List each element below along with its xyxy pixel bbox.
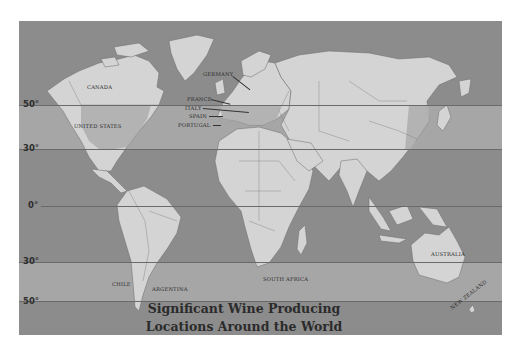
label-argentina: ARGENTINA (152, 286, 188, 292)
map-title-line1: Significant Wine Producing (114, 301, 374, 316)
latitude-label-50n: 50° (23, 99, 39, 109)
label-australia: AUSTRALIA (431, 251, 465, 257)
label-france: FRANCE (187, 96, 212, 102)
leader-spain (209, 116, 223, 117)
label-chile: CHILE (112, 281, 131, 287)
label-germany: GERMANY (203, 71, 233, 77)
latitude-label-0: 0° (28, 200, 38, 210)
label-canada: CANADA (87, 84, 112, 90)
equator-line (41, 206, 502, 207)
label-south-africa: SOUTH AFRICA (263, 276, 308, 282)
label-portugal: PORTUGAL (178, 122, 210, 128)
china-wine-region (405, 105, 429, 149)
label-united-states: UNITED STATES (74, 123, 122, 129)
latitude-label-30s: 30° (23, 256, 39, 266)
leader-portugal (213, 125, 221, 126)
latitude-label-30n: 30° (23, 143, 39, 153)
latitude-line-30n (19, 149, 502, 150)
latitude-label-50s: 50° (23, 296, 39, 306)
latitude-line-50n (19, 105, 502, 106)
europe-wine-region (219, 105, 281, 125)
land-masses (19, 21, 502, 335)
latitude-line-30s (19, 262, 502, 263)
south-america (117, 186, 181, 311)
label-spain: SPAIN (189, 113, 207, 119)
label-italy: ITALY (185, 105, 202, 111)
map-title-line2: Locations Around the World (114, 319, 374, 334)
world-map: 50° 30° 0° 30° 50° CANADA UNITED STATES … (19, 21, 502, 335)
